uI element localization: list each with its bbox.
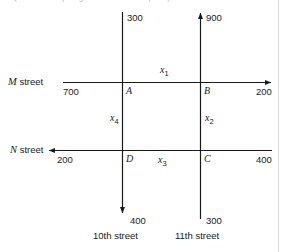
flow-variable-x3-index: 3 (162, 159, 166, 168)
m-street-word: street (17, 76, 43, 87)
eleventh-street-top-value: 900 (206, 13, 222, 23)
n-street-name: N street (10, 145, 43, 156)
n-street-left-value: 200 (57, 155, 73, 165)
street-network-flow-diagram: (this is the top edge of the cut-off cap… (0, 0, 288, 252)
m-street-name: M street (8, 77, 43, 88)
flow-variable-x2: x2 (205, 113, 214, 126)
m-street-left-value: 700 (63, 87, 79, 97)
node-a-label: A (126, 86, 132, 96)
flow-variable-x1-index: 1 (164, 69, 168, 78)
tenth-street-name: 10th street (93, 231, 138, 241)
tenth-street-bottom-value: 400 (130, 216, 146, 226)
eleventh-street-name: 11th street (175, 231, 219, 241)
flow-variable-x4-index: 4 (114, 117, 118, 126)
node-c-label: C (204, 154, 211, 164)
eleventh-street-bottom-value: 300 (206, 216, 222, 226)
flow-variable-x1: x1 (160, 65, 169, 78)
tenth-street-top-value: 300 (127, 13, 143, 23)
node-d-label: D (126, 154, 133, 164)
flow-variable-x4: x4 (110, 113, 119, 126)
n-street-word: street (17, 144, 43, 155)
m-street-initial: M (8, 76, 17, 87)
n-street-right-value: 400 (256, 155, 272, 165)
m-street-right-value: 200 (256, 87, 272, 97)
n-street-initial: N (10, 144, 17, 155)
flow-variable-x2-index: 2 (209, 117, 213, 126)
node-b-label: B (204, 86, 210, 96)
flow-variable-x3: x3 (158, 155, 167, 168)
